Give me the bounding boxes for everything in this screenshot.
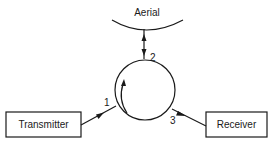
receiver-line bbox=[172, 109, 206, 126]
transmitter-label: Transmitter bbox=[18, 119, 69, 130]
arrow-to-circulator-icon bbox=[96, 113, 104, 120]
circulator-diagram: Aerial 2 Transmitter 1 3 Receiver bbox=[0, 0, 272, 144]
aerial-label: Aerial bbox=[134, 7, 160, 18]
arrow-up-icon bbox=[142, 34, 147, 41]
receiver-label: Receiver bbox=[217, 119, 257, 130]
arrow-down-icon bbox=[142, 49, 147, 56]
port-1-label: 1 bbox=[104, 97, 110, 108]
circulator-circle bbox=[115, 60, 175, 120]
aerial-dish bbox=[112, 20, 183, 30]
port-3-label: 3 bbox=[170, 115, 176, 126]
rotation-arrow-icon bbox=[121, 79, 126, 86]
